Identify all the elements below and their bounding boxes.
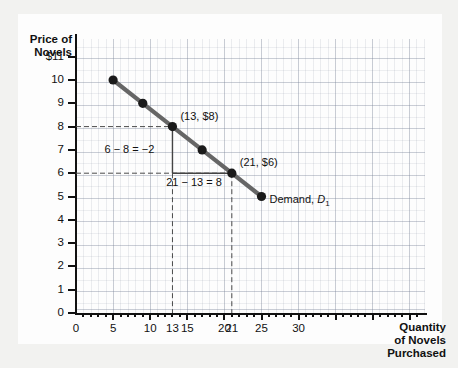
x-tick-5 [112, 313, 114, 320]
x-tick-23 [246, 313, 248, 317]
y-tick-2 [68, 265, 76, 267]
x-tick-42 [387, 313, 389, 317]
demand-curve-figure: Price of Novels Quantity of Novels Purch… [0, 0, 458, 368]
x-tick-2 [90, 313, 92, 317]
x-tick-label-0: 0 [56, 322, 96, 334]
y-tick-10 [68, 79, 76, 81]
x-tick-35 [335, 313, 337, 320]
run-annotation: 21 − 13 = 8 [166, 176, 222, 188]
y-tick-11 [68, 56, 76, 58]
x-tick-label-15: 15 [167, 322, 207, 334]
y-tick-8 [68, 126, 76, 128]
x-tick-17 [201, 313, 203, 317]
point-label-21-6: (21, $6) [240, 156, 278, 168]
x-tick-45 [409, 313, 411, 320]
y-tick-label-3: 3 [18, 236, 64, 248]
x-tick-38 [357, 313, 359, 317]
x-tick-30 [298, 313, 300, 320]
demand-label-subscript: 1 [325, 199, 329, 208]
x-tick-16 [194, 313, 196, 317]
y-tick-label-11: $11 [18, 50, 64, 62]
x-tick-13 [171, 313, 173, 317]
x-tick-6 [120, 313, 122, 317]
x-tick-34 [327, 313, 329, 317]
x-axis-title-line1: Quantity [368, 321, 446, 334]
y-tick-5 [68, 196, 76, 198]
x-tick-21 [231, 313, 233, 317]
y-tick-4 [68, 219, 76, 221]
x-tick-12 [164, 313, 166, 317]
x-tick-39 [364, 313, 366, 317]
y-tick-3 [68, 242, 76, 244]
x-tick-40 [372, 313, 374, 320]
x-axis-title: Quantity of Novels Purchased [368, 321, 446, 360]
x-tick-31 [305, 313, 307, 317]
x-axis-title-line3: Purchased [368, 347, 446, 360]
y-tick-label-5: 5 [18, 190, 64, 202]
x-tick-label-30: 30 [279, 322, 319, 334]
y-tick-label-8: 8 [18, 120, 64, 132]
y-tick-label-2: 2 [18, 259, 64, 271]
y-tick-0 [68, 312, 76, 314]
x-tick-27 [275, 313, 277, 317]
y-axis-line [75, 34, 77, 315]
x-tick-26 [268, 313, 270, 317]
y-tick-label-9: 9 [18, 96, 64, 108]
demand-curve-label: Demand, D1 [270, 193, 330, 208]
x-tick-25 [261, 313, 263, 320]
y-tick-label-1: 1 [18, 283, 64, 295]
y-tick-1 [68, 289, 76, 291]
y-tick-label-7: 7 [18, 143, 64, 155]
x-tick-24 [253, 313, 255, 317]
x-tick-43 [394, 313, 396, 317]
plot-area [76, 39, 425, 313]
point-label-13-8: (13, $8) [180, 110, 218, 122]
y-axis-title-line1: Price of [16, 33, 72, 46]
x-tick-41 [379, 313, 381, 317]
x-tick-1 [82, 313, 84, 317]
x-tick-3 [97, 313, 99, 317]
x-tick-label-25: 25 [242, 322, 282, 334]
y-tick-label-4: 4 [18, 213, 64, 225]
y-tick-7 [68, 149, 76, 151]
x-tick-7 [127, 313, 129, 317]
x-tick-18 [209, 313, 211, 317]
x-tick-11 [157, 313, 159, 317]
demand-label-text: Demand, [270, 193, 315, 205]
x-tick-label-5: 5 [93, 322, 133, 334]
x-tick-22 [238, 313, 240, 317]
x-tick-33 [320, 313, 322, 317]
x-tick-4 [105, 313, 107, 317]
y-tick-label-0: 0 [18, 306, 64, 318]
x-tick-36 [342, 313, 344, 317]
x-tick-32 [312, 313, 314, 317]
x-tick-29 [290, 313, 292, 317]
x-tick-46 [416, 313, 418, 317]
x-tick-15 [186, 313, 188, 320]
x-tick-19 [216, 313, 218, 317]
x-tick-14 [179, 313, 181, 317]
x-tick-10 [149, 313, 151, 320]
y-tick-label-10: 10 [18, 73, 64, 85]
x-tick-9 [142, 313, 144, 317]
x-axis-title-line2: of Novels [368, 334, 446, 347]
y-tick-label-6: 6 [18, 166, 64, 178]
y-tick-6 [68, 172, 76, 174]
y-tick-9 [68, 102, 76, 104]
x-tick-20 [223, 313, 225, 320]
rise-annotation: 6 − 8 = −2 [104, 143, 154, 155]
demand-label-symbol: D [317, 193, 325, 205]
x-tick-28 [283, 313, 285, 317]
x-tick-44 [401, 313, 403, 317]
x-tick-37 [350, 313, 352, 317]
x-tick-8 [134, 313, 136, 317]
